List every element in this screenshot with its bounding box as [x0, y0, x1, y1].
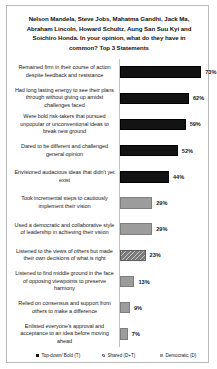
chart-row: Listened to the views of others but made… — [14, 242, 209, 268]
bar-value-label: 7% — [132, 330, 140, 338]
category-label: Enlisted everyone's approval and accepta… — [14, 323, 115, 346]
legend-item-shared[interactable]: Shared (D+T) — [102, 352, 135, 359]
legend-label: Democratic (D) — [165, 352, 196, 359]
category-label: Were bold risk-takers that pursued unpop… — [14, 113, 115, 136]
chart-row: Relied on consensus and support from oth… — [14, 295, 209, 321]
bar-topdown — [120, 145, 178, 157]
bar-democratic — [120, 276, 134, 288]
category-label: Envisioned audacious ideas that didn't y… — [14, 169, 115, 184]
bar-value-label: 29% — [156, 225, 167, 233]
bar-democratic — [120, 223, 152, 235]
legend-swatch-icon — [102, 354, 105, 357]
bar-value-label: 73% — [205, 68, 216, 76]
category-label: Listened to find middle ground in the fa… — [14, 270, 115, 293]
chart-row: Dared to be different and challenged gen… — [14, 138, 209, 164]
bar-shared — [120, 250, 146, 262]
category-label: Relied on consensus and support from oth… — [14, 300, 115, 315]
chart-row: Listened to find middle ground in the fa… — [14, 268, 209, 294]
category-label: Remained firm in their course of action … — [14, 64, 115, 79]
legend-label: Top-down/ Bold (T) — [41, 352, 80, 359]
bar-value-label: 62% — [193, 94, 204, 102]
chart-legend: Top-down/ Bold (T)Shared (D+T)Democratic… — [14, 352, 211, 366]
bar-value-label: 44% — [173, 173, 184, 181]
chart-row: Remained firm in their course of action … — [14, 59, 209, 85]
category-label: Took incremental steps to cautiously imp… — [14, 195, 115, 210]
bar-value-label: 13% — [138, 278, 149, 286]
bar-democratic — [120, 197, 152, 209]
legend-item-democratic[interactable]: Democratic (D) — [160, 352, 196, 359]
legend-item-topdown[interactable]: Top-down/ Bold (T) — [36, 352, 80, 359]
bar-topdown — [120, 119, 186, 131]
bar-value-label: 9% — [134, 304, 142, 312]
bar-democratic — [120, 302, 130, 314]
chart-row: Enlisted everyone's approval and accepta… — [14, 321, 209, 347]
legend-swatch-icon — [36, 354, 39, 357]
legend-swatch-icon — [160, 354, 163, 357]
chart-title: Nelson Mandela, Steve Jobs, Mahatma Gand… — [19, 14, 199, 52]
bar-value-label: 29% — [156, 199, 167, 207]
bar-topdown — [120, 66, 201, 78]
bar-value-label: 59% — [190, 120, 201, 128]
chart-row: Envisioned audacious ideas that didn't y… — [14, 164, 209, 190]
bar-value-label: 23% — [150, 251, 161, 259]
chart-container: Nelson Mandela, Steve Jobs, Mahatma Gand… — [6, 5, 209, 363]
category-label: Listened to the views of others but made… — [14, 248, 115, 263]
plot-area: Remained firm in their course of action … — [14, 59, 209, 347]
bar-democratic — [120, 328, 128, 340]
chart-row: Took incremental steps to cautiously imp… — [14, 190, 209, 216]
bar-value-label: 52% — [182, 147, 193, 155]
chart-row: Used a democratic and collaborative styl… — [14, 216, 209, 242]
chart-row: Were bold risk-takers that pursued unpop… — [14, 111, 209, 137]
bar-topdown — [120, 93, 189, 105]
chart-row: Had long lasting energy to see their pla… — [14, 85, 209, 111]
category-label: Used a democratic and collaborative styl… — [14, 222, 115, 237]
category-label: Dared to be different and challenged gen… — [14, 143, 115, 158]
bar-topdown — [120, 171, 169, 183]
category-label: Had long lasting energy to see their pla… — [14, 87, 115, 110]
legend-label: Shared (D+T) — [107, 352, 135, 359]
